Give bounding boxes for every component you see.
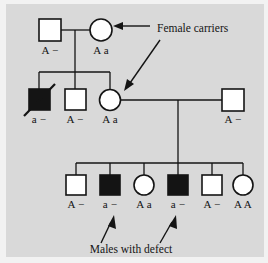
- arrow-head-female-carrier-1: [113, 22, 123, 30]
- genotype-label-i-3-2: a −: [103, 199, 117, 210]
- individual-square-i-2-2: [65, 89, 86, 110]
- genotype-label-i-2-3: A a: [102, 114, 118, 125]
- genotype-label-i-2-4: A −: [225, 114, 242, 125]
- individual-square-i-2-4: [222, 89, 244, 111]
- individual-circle-i-3-6: [233, 175, 253, 195]
- genotype-label-i-3-6: A A: [234, 199, 252, 210]
- genotype-label-i-2-2: A −: [67, 114, 84, 125]
- genotype-label-i-3-5: A −: [204, 199, 221, 210]
- genotype-label-i-3-4: a −: [171, 199, 185, 210]
- individual-square-i-3-4: [168, 175, 188, 195]
- individual-square-i-1-1: [39, 19, 61, 41]
- pedigree-figure: A − A a a − A − A a A − A − a − A a a − …: [0, 0, 268, 263]
- individual-square-i-3-2: [100, 175, 120, 195]
- individual-square-i-3-5: [202, 175, 222, 195]
- genotype-label-i-3-1: A −: [68, 199, 85, 210]
- arrow-head-female-carrier-2: [124, 79, 134, 91]
- arrow-shaft-female-carrier-2: [130, 40, 160, 83]
- individual-square-i-3-1: [66, 175, 86, 195]
- arrow-head-male-defect-2: [169, 215, 177, 229]
- genotype-label-i-1-1: A −: [42, 45, 59, 56]
- annotation-males-with-defect: Males with defect: [90, 243, 172, 255]
- genotype-label-i-2-1: a −: [32, 114, 46, 125]
- genotype-label-i-1-2: A a: [93, 45, 109, 56]
- annotation-female-carriers: Female carriers: [157, 22, 228, 34]
- individual-circle-i-1-2: [90, 19, 112, 41]
- individual-circle-i-3-3: [134, 175, 154, 195]
- genotype-label-i-3-3: A a: [136, 199, 152, 210]
- individual-circle-i-2-3: [100, 90, 121, 111]
- pedigree-canvas: [0, 0, 268, 263]
